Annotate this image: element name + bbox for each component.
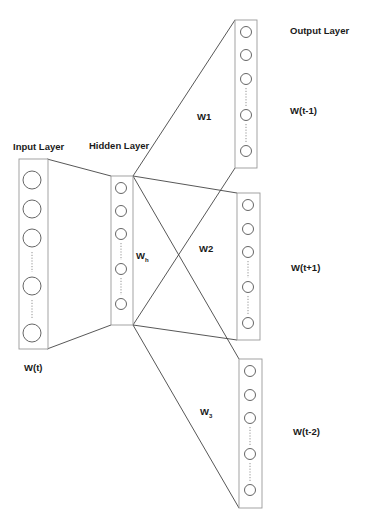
input-layer [19,159,48,349]
output-layer-3 [239,359,262,508]
weight-1-label: W1 [197,111,211,122]
weight-3-label: W3 [200,406,212,419]
weight-2-label: W2 [199,243,213,254]
connection-line [133,325,237,340]
output-2-word-label: W(t+1) [291,262,320,273]
input-word-label: W(t) [24,362,42,373]
input-layer-label: Input Layer [13,141,64,152]
output-layer-label: Output Layer [290,25,349,36]
hidden-layer-label: Hidden Layer [89,140,149,151]
output-3-word-label: W(t-2) [293,426,320,437]
output-1-word-label: W(t-1) [290,105,317,116]
connection-line [47,159,111,176]
output-layer-1 [235,20,257,168]
connection-line [47,325,111,349]
hidden-weight-label: Wh [136,250,149,263]
connection-line [133,325,239,508]
connection-line [133,176,239,359]
output-layer-2 [237,193,260,340]
connection-line [133,20,235,176]
connection-line [133,176,237,193]
connection-line [133,168,235,325]
hidden-layer [111,176,133,325]
